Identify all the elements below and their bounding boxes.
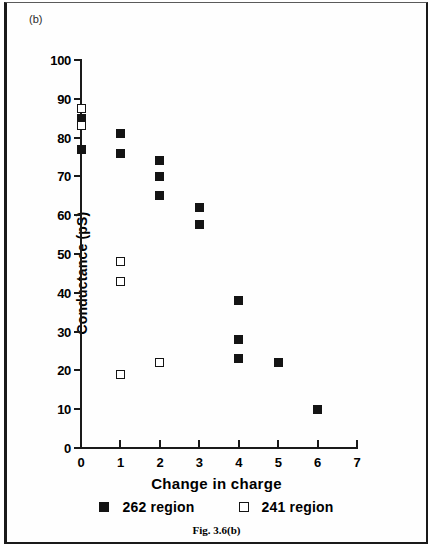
data-point-262 xyxy=(77,145,86,154)
y-tick-label: 30 xyxy=(57,324,71,339)
legend: 262 region 241 region xyxy=(7,499,426,515)
x-tick-label: 2 xyxy=(156,455,163,470)
y-tick xyxy=(74,253,82,255)
y-tick-label: 70 xyxy=(57,169,71,184)
filled-square-icon xyxy=(99,502,109,512)
data-point-241 xyxy=(77,121,86,130)
x-tick-label: 3 xyxy=(196,455,203,470)
y-tick xyxy=(74,59,82,61)
x-tick xyxy=(277,440,279,448)
data-point-241 xyxy=(155,358,164,367)
x-axis-title: Change in charge xyxy=(7,475,426,492)
data-point-262 xyxy=(274,358,283,367)
y-tick xyxy=(74,175,82,177)
y-tick-label: 80 xyxy=(57,130,71,145)
figure-caption: Fig. 3.6(b) xyxy=(7,524,426,536)
data-point-262 xyxy=(155,191,164,200)
y-tick xyxy=(74,331,82,333)
x-tick-label: 5 xyxy=(275,455,282,470)
y-tick-label: 60 xyxy=(57,208,71,223)
y-tick xyxy=(74,214,82,216)
legend-label-241: 241 region xyxy=(262,499,334,515)
x-tick xyxy=(238,440,240,448)
x-tick-label: 6 xyxy=(314,455,321,470)
legend-item-241: 241 region xyxy=(239,499,334,515)
data-point-241 xyxy=(77,104,86,113)
y-tick-label: 20 xyxy=(57,363,71,378)
data-point-241 xyxy=(116,370,125,379)
y-tick xyxy=(74,137,82,139)
x-tick-label: 4 xyxy=(235,455,242,470)
legend-label-262: 262 region xyxy=(122,499,194,515)
y-tick-label: 40 xyxy=(57,285,71,300)
panel-label: (b) xyxy=(29,13,42,25)
y-tick-label: 50 xyxy=(57,247,71,262)
data-point-262 xyxy=(155,172,164,181)
data-point-241 xyxy=(116,257,125,266)
y-tick-label: 100 xyxy=(50,53,71,68)
x-tick xyxy=(317,440,319,448)
x-tick-label: 0 xyxy=(78,455,85,470)
x-tick xyxy=(159,440,161,448)
x-tick xyxy=(356,440,358,448)
x-tick xyxy=(80,440,82,448)
data-point-262 xyxy=(116,129,125,138)
y-tick-label: 90 xyxy=(57,91,71,106)
plot-area: 0102030405060708090100 01234567 xyxy=(81,60,357,448)
data-point-262 xyxy=(234,296,243,305)
data-point-262 xyxy=(195,203,204,212)
legend-item-262: 262 region xyxy=(99,499,194,515)
data-point-262 xyxy=(234,335,243,344)
x-tick-label: 7 xyxy=(354,455,361,470)
y-tick xyxy=(74,408,82,410)
data-point-241 xyxy=(116,277,125,286)
data-point-262 xyxy=(313,405,322,414)
y-tick xyxy=(74,292,82,294)
x-tick-label: 1 xyxy=(117,455,124,470)
y-tick xyxy=(74,98,82,100)
data-point-262 xyxy=(234,354,243,363)
x-tick xyxy=(119,440,121,448)
figure-frame: (b) Conductance (pS) 0102030405060708090… xyxy=(4,2,428,544)
y-tick-label: 0 xyxy=(64,441,71,456)
data-point-262 xyxy=(155,156,164,165)
open-square-icon xyxy=(239,502,249,512)
data-point-262 xyxy=(116,149,125,158)
x-tick xyxy=(198,440,200,448)
y-tick-label: 10 xyxy=(57,402,71,417)
y-tick xyxy=(74,369,82,371)
data-point-262 xyxy=(195,220,204,229)
